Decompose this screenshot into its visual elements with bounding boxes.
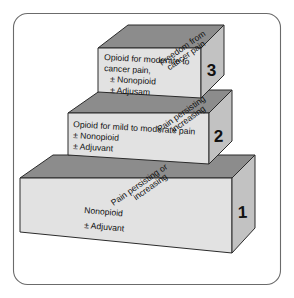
diagram-canvas: Freedom from cancer pain Opioid for mode… [0, 0, 294, 298]
who-analgesic-ladder-diagram: Freedom from cancer pain Opioid for mode… [0, 0, 294, 298]
step-1-block [20, 155, 255, 253]
step-2-number: 2 [213, 127, 223, 146]
step-3-front-line-4: ± Adjusam [110, 85, 151, 97]
step-3-number: 3 [206, 61, 216, 80]
step-1-number: 1 [237, 203, 247, 222]
